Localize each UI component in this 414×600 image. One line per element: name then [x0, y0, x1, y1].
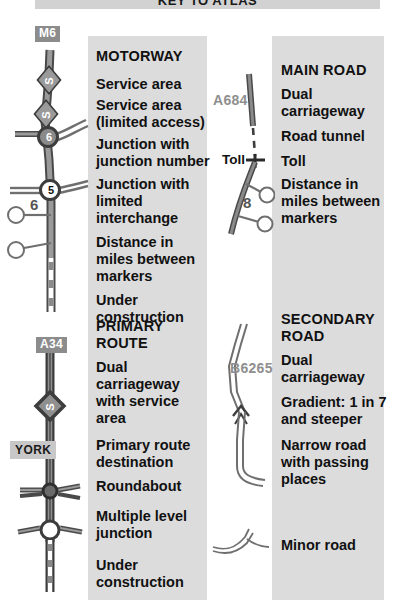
main-road-toll-label: Toll	[222, 152, 245, 167]
primary-route-shield: A34	[36, 337, 67, 353]
primary-route-item-roundabout: Roundabout	[96, 478, 212, 495]
secondary-road-symbol-graphic	[205, 320, 275, 500]
motorway-item-distance: Distance in miles between markers	[96, 234, 212, 285]
motorway-distance-number: 6	[30, 196, 38, 213]
motorway-shield: M6	[35, 26, 60, 42]
primary-route-item-under-construction: Under construction	[96, 557, 212, 591]
main-road-item-distance: Distance in miles between markers	[281, 176, 389, 227]
legend-title: KEY TO ATLAS	[158, 0, 257, 8]
svg-text:S: S	[40, 111, 52, 118]
motorway-heading: MOTORWAY	[96, 48, 212, 65]
map-legend: KEY TO ATLAS S S	[0, 0, 414, 600]
primary-route-item-multiple-level-junction: Multiple level junction	[96, 508, 212, 542]
primary-route-symbol-graphic: S	[0, 330, 90, 595]
motorway-item-service-area: Service area	[96, 76, 212, 93]
secondary-road-item-dual-carriageway: Dual carriageway	[281, 352, 389, 386]
main-road-item-toll: Toll	[281, 153, 389, 170]
main-road-item-road-tunnel: Road tunnel	[281, 128, 389, 145]
motorway-junction-number: 6	[41, 131, 57, 143]
secondary-road-number-label: B6265	[230, 360, 273, 376]
main-road-item-dual-carriageway: Dual carriageway	[281, 86, 389, 120]
main-road-distance-number: 8	[243, 194, 251, 211]
motorway-item-junction-number: Junction with junction number	[96, 136, 212, 170]
svg-text:S: S	[44, 403, 56, 410]
minor-road-symbol-graphic	[205, 525, 275, 565]
svg-text:S: S	[43, 77, 55, 84]
primary-route-item-destination: Primary route destination	[96, 437, 212, 471]
main-road-heading: MAIN ROAD	[281, 62, 389, 79]
secondary-road-item-narrow-road: Narrow road with passing places	[281, 437, 389, 488]
motorway-symbol-graphic: S S	[0, 30, 90, 320]
motorway-item-limited-interchange: Junction with limited interchange	[96, 176, 212, 227]
primary-route-destination-label: YORK	[10, 441, 56, 459]
motorway-item-service-area-limited: Service area (limited access)	[96, 97, 212, 131]
secondary-road-item-minor-road: Minor road	[281, 537, 389, 554]
primary-route-heading: PRIMARY ROUTE	[96, 318, 212, 352]
motorway-limited-junction-number: 5	[43, 184, 59, 196]
primary-route-item-dual-carriageway: Dual carriageway with service area	[96, 359, 212, 427]
secondary-road-item-gradient: Gradient: 1 in 7 and steeper	[281, 394, 389, 428]
legend-title-bar: KEY TO ATLAS	[35, 0, 380, 9]
secondary-road-heading: SECONDARY ROAD	[281, 311, 389, 345]
main-road-number-label: A684	[213, 92, 248, 108]
